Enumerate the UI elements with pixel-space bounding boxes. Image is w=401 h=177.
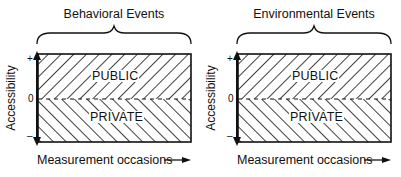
panel-graphic — [200, 0, 401, 177]
x-axis-label: Measurement occasions — [237, 153, 372, 167]
brace-icon — [37, 26, 191, 44]
panel-title: Behavioral Events — [0, 7, 228, 21]
panel-graphic — [0, 0, 200, 177]
region-label-private: PRIVATE — [89, 111, 144, 123]
tick-zero: 0 — [228, 94, 234, 104]
behavioral-events-panel: Behavioral Events PUBLIC PRIVATE Accessi… — [0, 0, 200, 177]
tick-plus: + — [27, 54, 33, 64]
y-axis-label: Accessibility — [4, 63, 18, 133]
region-label-public: PUBLIC — [91, 70, 139, 82]
region-label-public: PUBLIC — [291, 70, 339, 82]
panel-title: Environmental Events — [200, 7, 401, 21]
region-label-private: PRIVATE — [289, 111, 344, 123]
brace-icon — [237, 26, 391, 44]
arrow-right-icon — [382, 157, 391, 163]
tick-zero: 0 — [28, 94, 34, 104]
tick-minus: – — [227, 131, 233, 141]
environmental-events-panel: Environmental Events PUBLIC PRIVATE Acce… — [200, 0, 400, 177]
y-axis-label: Accessibility — [204, 63, 218, 133]
tick-minus: – — [27, 131, 33, 141]
tick-plus: + — [227, 54, 233, 64]
arrow-right-icon — [182, 157, 191, 163]
x-axis-label: Measurement occasions — [37, 153, 172, 167]
